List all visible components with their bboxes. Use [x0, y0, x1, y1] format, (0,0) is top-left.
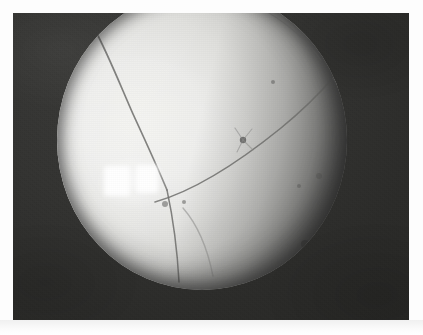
- page-bottom-margin: [0, 320, 423, 335]
- photograph-frame: [13, 13, 409, 320]
- specimen-circle: [57, 13, 347, 290]
- figure-root: [0, 0, 423, 335]
